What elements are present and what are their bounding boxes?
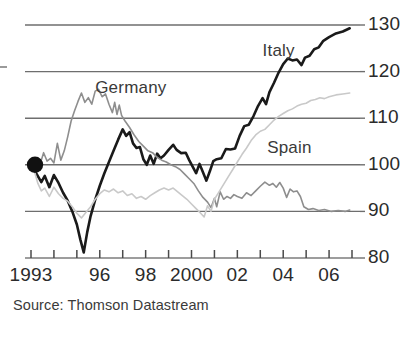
y-tick-label-80: 80	[368, 246, 390, 268]
y-tick-label-130: 130	[368, 13, 400, 35]
series-label-spain: Spain	[267, 138, 311, 158]
edge-artifact	[0, 66, 7, 68]
source-note: Source: Thomson Datastream	[13, 297, 209, 313]
x-axis-ticks-group	[31, 250, 352, 258]
series-label-italy: Italy	[263, 41, 295, 61]
y-tick-label-90: 90	[368, 199, 390, 221]
x-tick-label-1993: 1993	[1, 264, 61, 286]
line-chart-plot	[0, 0, 419, 337]
chart-container: 1301201101009080 199396982000020406 Ital…	[0, 0, 419, 337]
start-marker-group	[27, 157, 43, 173]
x-tick-label-2006: 06	[299, 264, 359, 286]
y-tick-label-100: 100	[368, 153, 400, 175]
series-label-germany: Germany	[95, 78, 166, 98]
start-marker-dot	[27, 157, 43, 173]
y-tick-label-110: 110	[368, 106, 399, 128]
y-tick-label-120: 120	[368, 60, 400, 82]
